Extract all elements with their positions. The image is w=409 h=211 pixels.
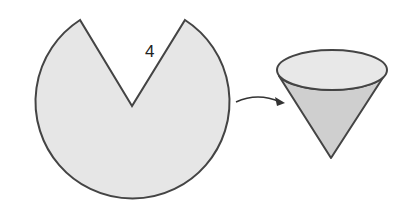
slant-length-label: 4 bbox=[145, 42, 154, 61]
cone bbox=[277, 50, 387, 158]
curved-arrow-icon bbox=[236, 97, 285, 106]
sector-to-cone-diagram: 4 bbox=[0, 0, 409, 211]
circular-sector bbox=[36, 20, 230, 199]
cone-base-ellipse bbox=[277, 50, 387, 90]
